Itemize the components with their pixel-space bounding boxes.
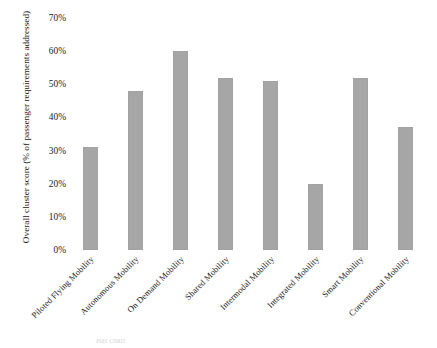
figure-caption-strip: Bar chart	[0, 339, 437, 348]
bar-slot	[68, 18, 113, 250]
y-tick-label: 60%	[36, 46, 66, 56]
x-tick-label: Shared Mobility	[183, 254, 231, 302]
y-axis-tick-labels: 0%10%20%30%40%50%60%70%	[36, 18, 66, 250]
y-tick-label: 10%	[36, 212, 66, 222]
x-axis-tick-labels: Piloted Flying MobilityAutonomous Mobili…	[68, 250, 428, 348]
bar-slot	[113, 18, 158, 250]
bar-series	[68, 18, 428, 250]
bar-slot	[293, 18, 338, 250]
bar-slot	[383, 18, 428, 250]
bar[interactable]	[83, 147, 98, 250]
bar[interactable]	[398, 127, 413, 250]
y-tick-label: 30%	[36, 146, 66, 156]
x-tick-label: Smart Mobility	[320, 254, 365, 299]
bar[interactable]	[308, 184, 323, 250]
y-tick-label: 50%	[36, 79, 66, 89]
y-tick-label: 0%	[36, 245, 66, 255]
bar-slot	[203, 18, 248, 250]
bar-chart-figure: Overall cluster score (% of passenger re…	[0, 0, 437, 348]
bar[interactable]	[128, 91, 143, 250]
bar-slot	[338, 18, 383, 250]
bar[interactable]	[218, 78, 233, 250]
bar-slot	[248, 18, 293, 250]
figure-caption-text: Bar chart	[96, 339, 126, 345]
y-tick-label: 20%	[36, 179, 66, 189]
y-tick-label: 70%	[36, 13, 66, 23]
bar[interactable]	[263, 81, 278, 250]
bar-slot	[158, 18, 203, 250]
bar[interactable]	[173, 51, 188, 250]
y-tick-label: 40%	[36, 112, 66, 122]
bar[interactable]	[353, 78, 368, 250]
